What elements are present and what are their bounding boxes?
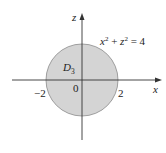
tick-pos-2: 2 xyxy=(118,87,124,99)
circle-equation: x2 + z2 = 4 xyxy=(99,35,146,47)
origin-label: 0 xyxy=(73,82,79,94)
region-label-base: D xyxy=(62,61,71,73)
eq-rhs: = 4 xyxy=(128,35,146,47)
region-label-sub: 3 xyxy=(71,67,75,76)
tick-neg-2: −2 xyxy=(34,87,46,99)
x-axis-arrow-icon xyxy=(155,78,162,83)
z-axis-label: z xyxy=(71,11,77,23)
z-axis-arrow-icon xyxy=(80,13,85,20)
x-axis-label: x xyxy=(152,83,158,95)
circle-region-diagram: z x −2 2 0 D3 x2 + z2 = 4 xyxy=(0,0,166,153)
eq-plus: + xyxy=(108,35,120,47)
